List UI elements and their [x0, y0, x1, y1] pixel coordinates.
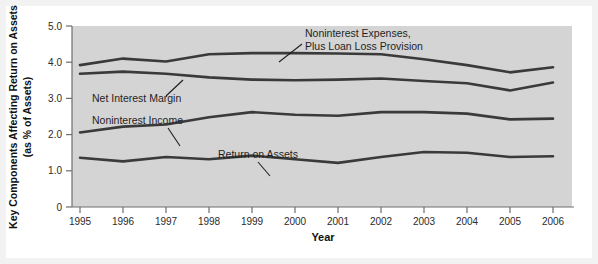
x-tick-label: 2000	[284, 216, 307, 227]
y-tick-label: 5.0	[48, 21, 62, 32]
x-axis-title: Year	[311, 231, 335, 243]
y-tick-label: 4.0	[48, 57, 62, 68]
x-tick-label: 1999	[241, 216, 264, 227]
y-axis-title: Key Components Affecting Return on Asset…	[7, 5, 33, 229]
x-tick-label: 2001	[327, 216, 350, 227]
y-axis-ticks: 01.02.03.04.05.0	[48, 21, 72, 213]
x-tick-label: 2006	[542, 216, 565, 227]
y-tick-label: 2.0	[48, 129, 62, 140]
line-chart: 01.02.03.04.05.0 19951996199719981999200…	[0, 0, 598, 264]
x-tick-label: 2005	[499, 216, 522, 227]
x-tick-label: 2004	[456, 216, 479, 227]
x-tick-label: 2002	[370, 216, 393, 227]
y-tick-label: 0	[56, 202, 62, 213]
y-axis-title-line2: (as % of Assets)	[21, 77, 33, 158]
y-axis-title-line1: Key Components Affecting Return on Asset…	[7, 5, 19, 229]
annotation-return-on-assets-line1: Return on Assets	[218, 148, 298, 160]
x-tick-label: 1995	[69, 216, 92, 227]
annotation-noninterest-expenses-line1: Noninterest Expenses,	[305, 27, 411, 39]
chart-figure: 01.02.03.04.05.0 19951996199719981999200…	[0, 0, 598, 264]
y-tick-label: 3.0	[48, 93, 62, 104]
annotation-noninterest-income-line1: Noninterest Income	[92, 114, 183, 126]
x-axis-ticks: 1995199619971998199920002001200220032004…	[69, 207, 565, 227]
x-tick-label: 1998	[198, 216, 221, 227]
annotation-noninterest-expenses-line2: Plus Loan Loss Provision	[305, 40, 423, 52]
x-tick-label: 2003	[413, 216, 436, 227]
x-tick-label: 1997	[155, 216, 178, 227]
y-tick-label: 1.0	[48, 165, 62, 176]
x-tick-label: 1996	[112, 216, 135, 227]
